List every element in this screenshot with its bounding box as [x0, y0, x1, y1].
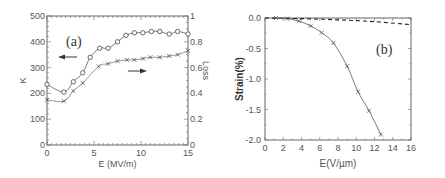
circle-marker — [81, 71, 85, 75]
x-tick-label: 0 — [262, 143, 267, 153]
x-marker — [71, 89, 75, 93]
x-marker — [367, 109, 371, 113]
panel-label-a: (a) — [66, 34, 82, 50]
y2-tick-label: 0 — [190, 140, 195, 150]
x-axis-label: E(V/µm) — [320, 158, 357, 169]
circle-marker — [141, 31, 145, 35]
x-tick-label: 2 — [281, 143, 286, 153]
y-tick-label: 100 — [30, 114, 45, 124]
panel-label-b: (b) — [376, 42, 393, 58]
x-marker — [331, 41, 335, 45]
circle-marker — [62, 90, 66, 94]
y2-tick-label: 0.8 — [190, 37, 203, 47]
x-marker — [97, 64, 101, 68]
arrow-right-icon — [140, 69, 147, 74]
y2-tick-label: 0.4 — [190, 88, 203, 98]
plot-frame — [265, 18, 411, 140]
x-marker — [379, 133, 383, 137]
x-tick-label: 16 — [406, 143, 416, 153]
x-marker — [320, 31, 324, 35]
x-tick-label: 5 — [91, 148, 96, 158]
y-tick-label: 0.0 — [248, 13, 261, 23]
y2-tick-label: 0.6 — [190, 63, 203, 73]
y-tick-label: -1.5 — [245, 105, 261, 115]
y-tick-label: 0 — [40, 140, 45, 150]
x-tick-label: 4 — [299, 143, 304, 153]
circle-marker — [132, 31, 136, 35]
circle-marker — [97, 46, 101, 50]
chart-b-canvas: 02468101214160.0-0.5-1.0-1.5-2.0E(V/µm)S… — [222, 0, 445, 178]
circle-marker — [45, 82, 49, 86]
circle-marker — [158, 29, 162, 33]
circle-marker — [149, 29, 153, 33]
x-marker — [309, 24, 313, 28]
figure-a: 051015010020030040050000.20.40.60.81E (M… — [0, 0, 222, 178]
chart-a-canvas: 051015010020030040050000.20.40.60.81E (M… — [0, 0, 222, 178]
x-tick-label: 10 — [351, 143, 361, 153]
x-tick-label: 6 — [317, 143, 322, 153]
circle-marker — [106, 46, 110, 50]
y-tick-label: -2.0 — [245, 135, 261, 145]
arrow-left-icon — [58, 55, 65, 60]
y2-tick-label: 1 — [190, 11, 195, 21]
y-tick-label: 200 — [30, 88, 45, 98]
circle-marker — [71, 80, 75, 84]
y-tick-label: -1.0 — [245, 74, 261, 84]
x-axis-label: E (MV/m) — [99, 159, 137, 169]
y-tick-label: 500 — [30, 11, 45, 21]
series-measured-line — [276, 18, 381, 135]
circle-marker — [115, 40, 119, 44]
circle-marker — [124, 33, 128, 37]
x-tick-label: 8 — [335, 143, 340, 153]
circle-marker — [167, 32, 171, 36]
y-axis-label: Strain(%) — [234, 57, 245, 101]
circle-marker — [186, 32, 190, 36]
y-axis-label: K — [18, 77, 28, 83]
y2-tick-label: 0.2 — [190, 114, 203, 124]
figure-b: 02468101214160.0-0.5-1.0-1.5-2.0E(V/µm)S… — [222, 0, 445, 178]
x-marker — [345, 64, 349, 68]
circle-marker — [175, 29, 179, 33]
y-tick-label: 400 — [30, 37, 45, 47]
y-tick-label: 300 — [30, 63, 45, 73]
circle-marker — [88, 55, 92, 59]
x-tick-label: 14 — [388, 143, 398, 153]
series-loss-line — [47, 51, 188, 102]
x-tick-label: 10 — [136, 148, 146, 158]
x-marker — [81, 81, 85, 85]
y2-axis-label: Loss — [201, 61, 211, 81]
x-tick-label: 0 — [44, 148, 49, 158]
y-tick-label: -0.5 — [245, 44, 261, 54]
x-tick-label: 12 — [369, 143, 379, 153]
x-marker — [356, 90, 360, 94]
